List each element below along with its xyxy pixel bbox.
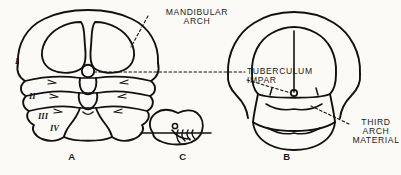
figure-b-sulcus-tick-left xyxy=(270,88,272,95)
figure-c-arch-hatch-4 xyxy=(192,130,195,139)
panel-caption-a: A xyxy=(60,152,84,162)
figure-a-epiglottic-tick xyxy=(83,112,93,114)
figure-a-arrow-1r xyxy=(120,80,128,84)
figure-a-copula xyxy=(80,78,97,94)
figure-a-outline xyxy=(18,10,158,63)
arch-numeral-iv: IV xyxy=(50,124,59,133)
figure-b-pharyngeal-part xyxy=(253,94,335,131)
label-mandibular-arch: MANDIBULAR ARCH xyxy=(149,8,245,26)
arch-numeral-iii: III xyxy=(38,112,48,121)
figure-a-arrow-3r xyxy=(114,109,122,113)
figure-c-drawing xyxy=(141,110,211,144)
figure-a-median-notch xyxy=(79,93,98,109)
arch-numeral-i: I xyxy=(15,57,18,66)
figure-b-transverse-ridge-1 xyxy=(266,104,322,110)
panel-caption-b: B xyxy=(275,152,299,162)
figure-b-sulcus-tick-right xyxy=(316,88,318,95)
figure-b-inferior-margin xyxy=(253,122,335,150)
figure-c-arch-hatch-2 xyxy=(182,130,185,141)
figure-b-right-flange xyxy=(340,74,360,118)
figure-a-left-lingual-swelling xyxy=(42,22,86,73)
figure-a-tuberculum-impar xyxy=(82,65,94,77)
label-third-arch-material: THIRD ARCH MATERIAL xyxy=(351,118,401,144)
figure-a-arrow-3l xyxy=(54,109,62,113)
figure-line-art xyxy=(0,0,401,175)
figure-a-band-2 xyxy=(26,91,150,96)
figure-c-eye xyxy=(172,123,177,128)
arch-numeral-ii: II xyxy=(29,92,36,101)
figure-b-left-flange xyxy=(228,74,248,118)
figure-a-band-1 xyxy=(25,77,151,81)
figure-a-epiglottic-swelling xyxy=(64,108,112,141)
figure-a-arrow-1l xyxy=(48,80,56,84)
anatomical-figure: MANDIBULAR ARCH TUBERCULUM IMPAR THIRD A… xyxy=(0,0,401,175)
panel-caption-c: C xyxy=(171,152,195,162)
figure-a-drawing xyxy=(17,10,158,141)
label-tuberculum-impar: TUBERCULUM IMPAR xyxy=(247,67,339,85)
figure-a-right-lingual-swelling xyxy=(90,22,134,73)
figure-a-arrow-2r xyxy=(118,94,126,98)
figure-a-arrow-2l xyxy=(50,94,58,98)
